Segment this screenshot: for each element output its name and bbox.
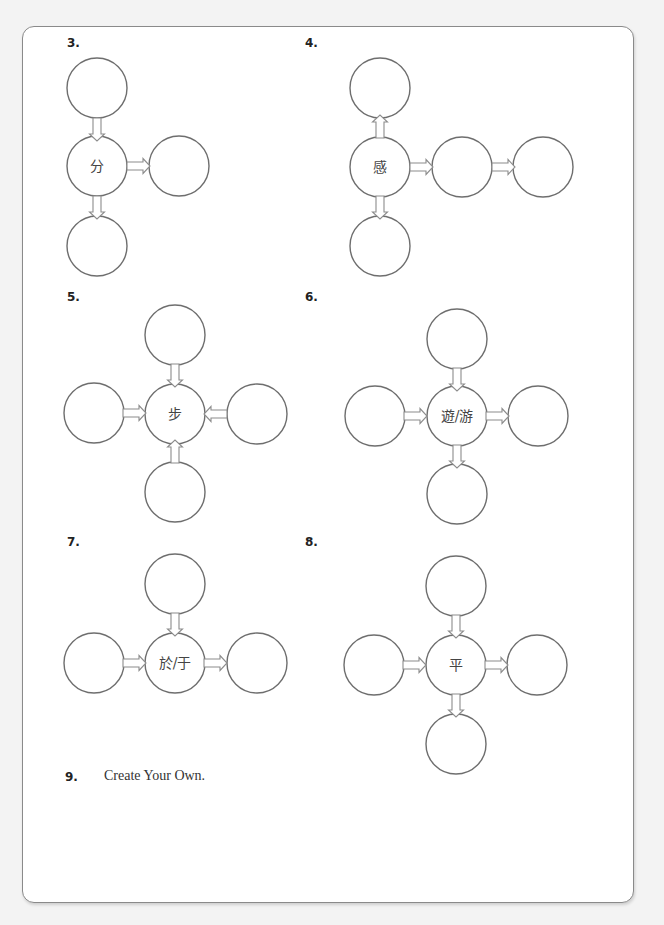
arrow-right-icon bbox=[404, 409, 427, 424]
arrow-right-icon bbox=[127, 159, 150, 174]
arrow-down-icon bbox=[168, 364, 183, 387]
center-character: 感 bbox=[373, 159, 387, 175]
blank-circle-right[interactable] bbox=[149, 136, 209, 196]
center-character: 分 bbox=[90, 158, 104, 174]
arrow-right-icon bbox=[486, 409, 509, 424]
blank-circle-left[interactable] bbox=[345, 386, 405, 446]
diagram-3: 分 bbox=[67, 58, 209, 276]
diagram-6: 遊/游 bbox=[345, 309, 568, 524]
blank-circle-top[interactable] bbox=[426, 556, 486, 616]
center-character: 步 bbox=[168, 406, 182, 422]
blank-circle-bottom[interactable] bbox=[145, 462, 205, 522]
blank-circle-bottom[interactable] bbox=[67, 216, 127, 276]
blank-circle-right[interactable] bbox=[227, 633, 287, 693]
blank-circle-left[interactable] bbox=[64, 383, 124, 443]
blank-circle-top[interactable] bbox=[427, 309, 487, 369]
arrow-right-icon bbox=[485, 658, 508, 673]
arrow-right-icon bbox=[204, 656, 227, 671]
diagram-4: 感 bbox=[350, 58, 573, 276]
blank-circle-left[interactable] bbox=[64, 633, 124, 693]
arrow-right-icon bbox=[403, 658, 426, 673]
arrow-left-icon bbox=[204, 407, 227, 422]
arrow-up-icon bbox=[373, 115, 388, 138]
blank-circle-top[interactable] bbox=[145, 305, 205, 365]
blank-circle-bottom[interactable] bbox=[426, 714, 486, 774]
arrow-right-icon bbox=[410, 160, 433, 175]
blank-circle-right[interactable] bbox=[227, 384, 287, 444]
diagram-8: 平 bbox=[344, 556, 567, 774]
blank-circle-right-1[interactable] bbox=[432, 137, 492, 197]
diagram-7: 於/于 bbox=[64, 554, 287, 693]
arrow-right-icon bbox=[123, 656, 146, 671]
arrow-right-icon bbox=[123, 406, 146, 421]
arrow-right-icon bbox=[492, 160, 515, 175]
blank-circle-right-2[interactable] bbox=[513, 137, 573, 197]
center-character: 平 bbox=[449, 657, 463, 673]
arrow-down-icon bbox=[449, 615, 464, 638]
blank-circle-left[interactable] bbox=[344, 635, 404, 695]
blank-circle-top[interactable] bbox=[145, 554, 205, 614]
arrow-down-icon bbox=[373, 196, 388, 219]
center-character: 於/于 bbox=[159, 655, 192, 671]
arrow-down-icon bbox=[168, 613, 183, 636]
arrow-down-icon bbox=[449, 694, 464, 717]
arrow-down-icon bbox=[90, 196, 105, 219]
diagram-5: 步 bbox=[64, 305, 287, 522]
blank-circle-right[interactable] bbox=[508, 386, 568, 446]
center-character: 遊/游 bbox=[441, 408, 474, 424]
blank-circle-right[interactable] bbox=[507, 635, 567, 695]
blank-circle-bottom[interactable] bbox=[350, 216, 410, 276]
blank-circle-top[interactable] bbox=[67, 58, 127, 118]
blank-circle-bottom[interactable] bbox=[427, 464, 487, 524]
blank-circle-top[interactable] bbox=[350, 58, 410, 118]
